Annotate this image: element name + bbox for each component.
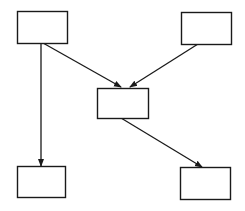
box-bottom-left [18,167,66,198]
arrow-top-left-to-middle [43,43,121,87]
node-middle [98,89,149,119]
box-top-left [18,12,68,44]
node-bottom-left [18,167,66,198]
nodes-group [18,12,232,200]
node-top-right [182,13,232,45]
node-bottom-right [181,168,231,200]
arrow-top-right-to-middle [130,44,198,87]
node-top-left [18,12,68,44]
arrow-middle-to-bottom-right [121,118,202,167]
box-bottom-right [181,168,231,200]
flow-diagram [0,0,245,211]
box-middle [98,89,149,119]
box-top-right [182,13,232,45]
